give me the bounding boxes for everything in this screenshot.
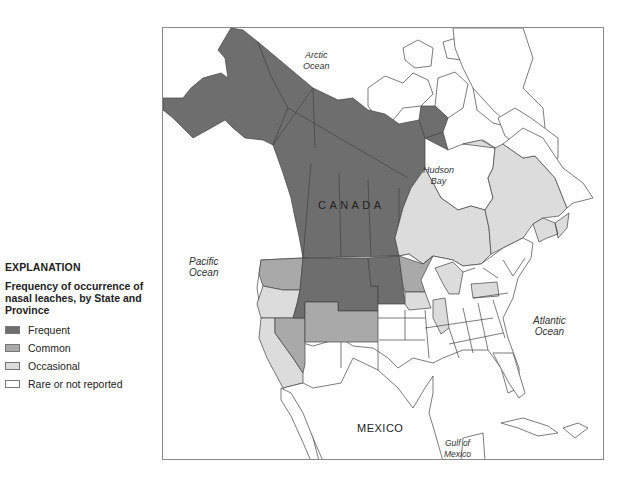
legend-item-frequent: Frequent: [5, 321, 160, 339]
label-gulf-of-mexico: Gulf of Mexico: [444, 438, 471, 460]
legend-label-rare: Rare or not reported: [28, 378, 123, 390]
region-hispaniola: [563, 423, 588, 438]
label-mexico: MEXICO: [357, 422, 403, 434]
legend-item-common: Common: [5, 339, 160, 357]
legend-item-rare: Rare or not reported: [5, 375, 160, 393]
region-cuba: [501, 418, 558, 436]
region-oregon: [257, 286, 300, 318]
label-atlantic-ocean: Atlantic Ocean: [533, 315, 566, 337]
swatch-rare: [5, 380, 20, 388]
map-svg: [163, 28, 604, 460]
swatch-frequent: [5, 326, 20, 334]
region-alaska: [163, 28, 288, 145]
legend-label-common: Common: [28, 342, 71, 354]
label-pacific-ocean: Pacific Ocean: [189, 256, 218, 278]
legend-label-occasional: Occasional: [28, 360, 80, 372]
label-hudson-bay: Hudson Bay: [423, 165, 454, 187]
legend-subtitle: Frequency of occurrence of nasal leaches…: [5, 280, 160, 316]
legend-item-occasional: Occasional: [5, 357, 160, 375]
legend-title: EXPLANATION: [5, 261, 160, 273]
map: Arctic Ocean Hudson Bay Pacific Ocean At…: [162, 27, 604, 460]
legend: EXPLANATION Frequency of occurrence of n…: [5, 261, 160, 393]
region-pennsylvania: [471, 282, 499, 298]
swatch-occasional: [5, 362, 20, 370]
swatch-common: [5, 344, 20, 352]
legend-label-frequent: Frequent: [28, 324, 70, 336]
label-canada: C A N A D A: [318, 199, 382, 211]
label-arctic-ocean: Arctic Ocean: [303, 50, 330, 72]
region-washington: [259, 258, 303, 290]
